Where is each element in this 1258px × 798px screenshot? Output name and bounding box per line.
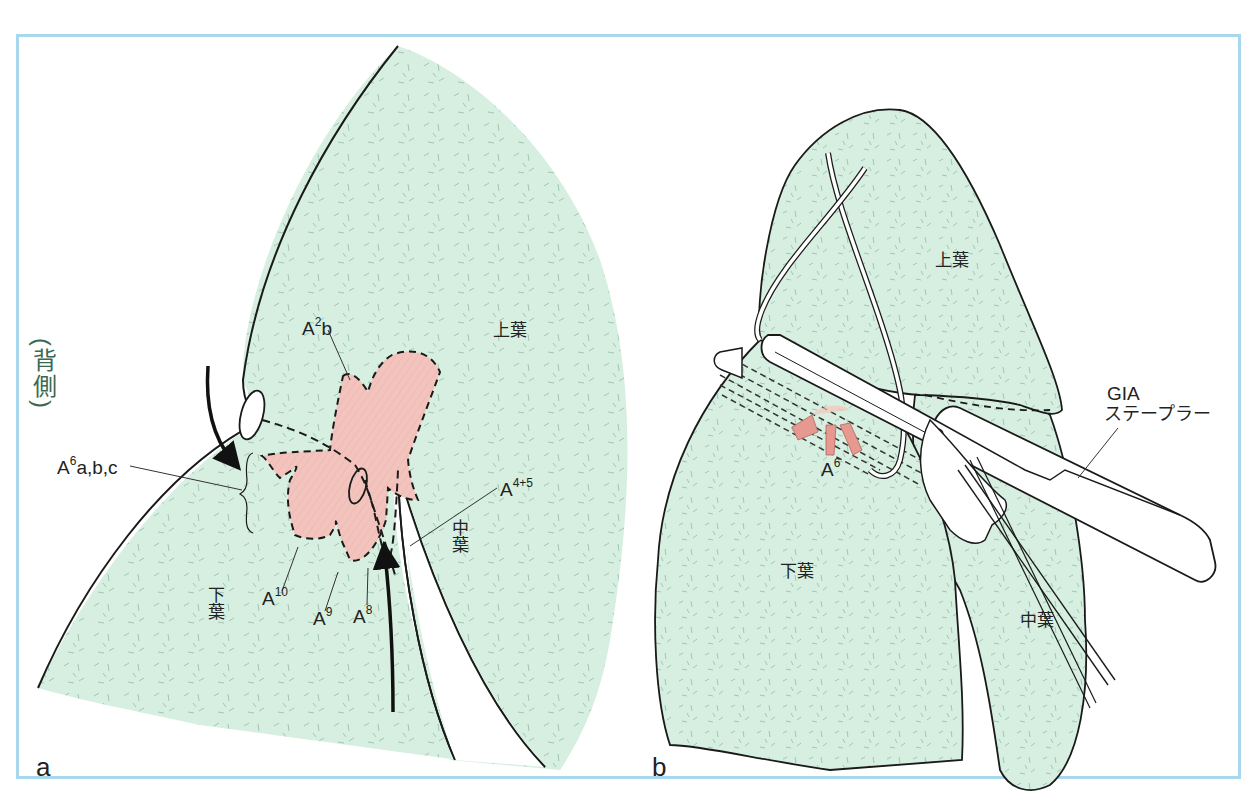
label-a9-sup: 9	[326, 605, 333, 619]
panel-b-drawing	[655, 109, 1215, 790]
label-a6abc-base: A	[57, 457, 70, 478]
illustration	[0, 0, 1258, 798]
label-a6-b-sup: 6	[834, 456, 841, 470]
label-a8-base: A	[353, 606, 366, 627]
panel-a-drawing	[38, 46, 628, 770]
label-a8: A8	[353, 606, 372, 626]
label-a9: A9	[313, 608, 332, 628]
label-a10-sup: 10	[275, 585, 288, 599]
label-a45-base: A	[500, 479, 513, 500]
label-middle-lobe-a: 中葉	[450, 519, 467, 553]
label-upper-lobe-a: 上葉	[493, 322, 527, 339]
dorsal-side-label: (背側)	[30, 338, 54, 410]
label-stapler: ステープラー	[1104, 405, 1211, 423]
label-a2b-sup: 2	[315, 315, 322, 329]
label-a6-b: A6	[821, 459, 840, 479]
panel-letter-a: a	[36, 752, 50, 783]
label-a45: A4+5	[500, 479, 533, 499]
panel-letter-b: b	[652, 752, 666, 783]
label-lower-lobe-a: 下葉	[206, 586, 223, 620]
lung-a	[38, 46, 628, 770]
label-a6abc-suffix: a,b,c	[76, 457, 117, 478]
label-a2b-base: A	[302, 318, 315, 339]
label-gia: GIA	[1107, 384, 1140, 403]
label-a6abc-sup: 6	[70, 454, 77, 468]
label-a10-base: A	[262, 588, 275, 609]
label-a10: A10	[262, 588, 288, 608]
label-upper-lobe-b: 上葉	[935, 252, 969, 269]
label-a2b-suffix: b	[321, 318, 332, 339]
label-a6-b-base: A	[821, 459, 834, 480]
label-a9-base: A	[313, 608, 326, 629]
label-a6abc: A6a,b,c	[57, 457, 118, 477]
label-a8-sup: 8	[366, 603, 373, 617]
label-middle-lobe-b: 中葉	[1020, 612, 1054, 629]
label-a45-sup: 4+5	[513, 476, 533, 490]
label-lower-lobe-b: 下葉	[780, 563, 814, 580]
label-a2b: A2b	[302, 318, 332, 338]
